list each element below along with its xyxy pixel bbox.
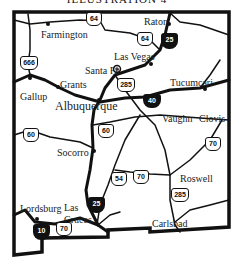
us-route-70-shield-2: 70 (133, 170, 149, 184)
interstate-25-shield-2: 25 (88, 197, 105, 213)
city-label-vaughn: Vaughn (162, 114, 193, 124)
city-label-raton: Raton (144, 17, 168, 27)
city-label-farmington: Farmington (41, 30, 88, 40)
interstate-40-shield: 40 (143, 94, 161, 108)
interstate-10-shield: 10 (33, 224, 50, 240)
us-route-64-shield-2: 64 (137, 32, 153, 46)
city-dot-las-vegas (149, 62, 153, 66)
us-route-64-shield: 64 (86, 12, 102, 26)
us-route-60-shield: 60 (23, 128, 39, 142)
city-label-roswell: Roswell (180, 174, 213, 184)
city-label-las-vegas: Las Vegas (114, 52, 155, 62)
city-label-albuquerque: Albuquerque (55, 100, 118, 112)
us-route-60-shield-2: 60 (98, 124, 114, 138)
city-label-santa-fe: Santa Fe (85, 66, 120, 76)
city-dot-farmington (46, 22, 50, 26)
city-label-tucumcari: Tucumcari (170, 78, 213, 88)
city-dot-lordsburg (35, 217, 39, 221)
city-dot-albuquerque (97, 98, 101, 102)
city-dot-grants (56, 85, 60, 89)
city-label-las-cruces-1: Las (64, 203, 78, 213)
us-route-285-shield-2: 285 (171, 188, 189, 202)
city-dot-tucumcari (203, 87, 207, 91)
us-route-666-shield: 666 (20, 56, 38, 70)
us-route-285-shield: 285 (117, 78, 135, 92)
interstate-25-shield: 25 (161, 33, 178, 49)
city-dot-socorro (92, 149, 96, 153)
city-label-lordsburg: Lordsburg (20, 204, 61, 214)
city-label-clovis: Clovis (199, 114, 225, 124)
us-route-70-shield-3: 70 (56, 222, 72, 236)
us-route-54-shield: 54 (111, 172, 127, 186)
city-label-socorro: Socorro (57, 148, 89, 158)
state-border (14, 12, 229, 255)
city-label-gallup: Gallup (20, 92, 47, 102)
city-dot-raton (167, 22, 171, 26)
city-label-grants: Grants (60, 80, 87, 90)
city-label-carlsbad: Carlsbad (152, 219, 188, 229)
city-dot-gallup (28, 76, 32, 80)
us-route-70-shield: 70 (205, 137, 221, 151)
